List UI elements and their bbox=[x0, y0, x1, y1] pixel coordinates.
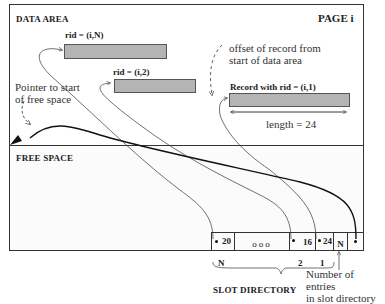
offset-dashed-arrow bbox=[210, 45, 222, 95]
slot-1-pointer bbox=[219, 98, 316, 239]
slot-n-pointer bbox=[39, 49, 213, 239]
slot-2-pointer bbox=[100, 83, 291, 239]
free-space-pointer bbox=[30, 126, 356, 239]
free-space-arrowhead-icon bbox=[10, 135, 22, 145]
slot-directory-brace bbox=[213, 262, 334, 274]
pointer-annotation-arrow bbox=[22, 101, 30, 124]
